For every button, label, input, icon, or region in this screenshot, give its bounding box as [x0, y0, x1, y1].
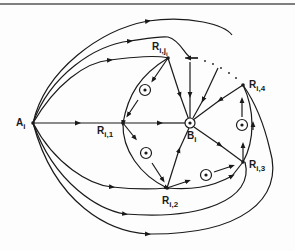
label-r-i4: Ri,4	[249, 80, 265, 93]
node-a	[31, 121, 35, 125]
node-r-i3	[241, 160, 245, 164]
circled-node	[201, 170, 212, 181]
circled-node	[237, 120, 248, 131]
diagram-canvas: Ai Ri,1 Bi Ri,ji Ri,2 Ri,3 Ri,4	[0, 0, 295, 251]
label-b-i: Bi	[187, 131, 196, 144]
ellipsis-dots	[204, 60, 237, 79]
node-b	[185, 118, 195, 128]
graph-diagram	[0, 0, 295, 251]
circled-node	[140, 85, 151, 96]
label-r-i3: Ri,3	[249, 160, 265, 173]
label-r-i1: Ri,1	[97, 126, 113, 139]
label-r-iji: Ri,ji	[152, 42, 168, 57]
label-a-i: Ai	[16, 118, 25, 131]
node-r-i2	[165, 186, 169, 190]
node-r-i1	[121, 121, 125, 125]
node-r-i4	[241, 83, 245, 87]
circled-node	[141, 148, 152, 159]
label-r-i2: Ri,2	[162, 196, 178, 209]
